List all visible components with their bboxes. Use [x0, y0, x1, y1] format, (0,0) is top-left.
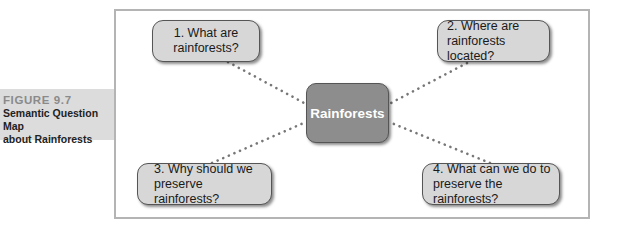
connector-q3 — [212, 122, 306, 163]
question-box-4: 4. What can we do to preserve the rainfo… — [422, 163, 560, 205]
question-1-line2: rainforests? — [173, 41, 238, 56]
center-topic-label: Rainforests — [310, 106, 384, 121]
question-3-line1: 3. Why should we — [154, 162, 271, 177]
question-4-line2: preserve the rainforests? — [433, 177, 559, 207]
question-box-3: 3. Why should we preserve rainforests? — [137, 163, 272, 205]
question-box-1: 1. What are rainforests? — [152, 20, 260, 62]
connector-q4 — [389, 122, 490, 163]
question-3-line2: preserve rainforests? — [154, 177, 271, 207]
question-box-2: 2. Where are rainforests located? — [437, 20, 550, 62]
connector-q2 — [389, 63, 467, 104]
question-1-line1: 1. What are — [174, 26, 239, 41]
question-4-line1: 4. What can we do to — [433, 162, 559, 177]
center-topic-box: Rainforests — [306, 83, 389, 143]
connector-q1 — [228, 62, 306, 104]
question-2-line1: 2. Where are — [447, 19, 549, 34]
question-2-line2: rainforests located? — [447, 34, 549, 64]
